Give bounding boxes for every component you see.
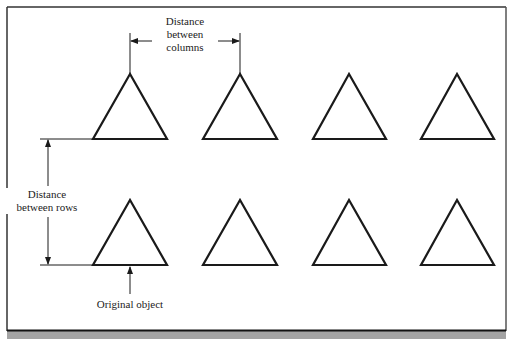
label-original-object: Original object [80,298,180,311]
label-line: Distance [2,188,92,201]
triangle-icon [421,200,494,265]
triangle-icon [313,74,386,139]
label-distance-between-columns: Distance between columns [148,15,222,54]
triangle-icon [203,200,277,265]
triangle-icon [313,200,386,265]
diagram-canvas [0,0,511,339]
triangle-icon [421,74,494,139]
triangle-icon [203,74,277,139]
array-row-2 [93,200,494,265]
label-line: columns [148,41,222,54]
label-distance-between-rows: Distance between rows [2,188,92,214]
footer-band [7,331,506,339]
triangle-icon [93,74,167,139]
label-line: Distance [148,15,222,28]
original-object-triangle-icon [93,200,167,265]
label-line: between rows [2,201,92,214]
array-row-1 [93,74,494,139]
label-line: between [148,28,222,41]
frame-border [7,7,506,331]
